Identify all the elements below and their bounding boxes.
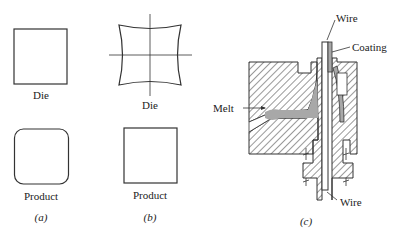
wire [322, 42, 328, 190]
wire-top-label: Wire [336, 13, 358, 24]
caption-a: (a) [35, 212, 48, 223]
panel-a [14, 29, 69, 184]
caption-b: (b) [144, 212, 157, 223]
extrusion-die-figure: Die Product (a) Die Product (b) Wire Coa… [0, 0, 396, 232]
product-rounded-a [15, 129, 69, 184]
die-right-step [337, 73, 347, 95]
product-square-b [124, 128, 177, 183]
coating-label: Coating [352, 42, 387, 53]
melt-label: Melt [213, 103, 234, 114]
product-label-b: Product [133, 190, 167, 201]
leader-wire-top [327, 20, 335, 40]
die-square-a [14, 29, 67, 84]
caption-c: (c) [300, 216, 312, 227]
leader-coating [332, 47, 350, 52]
die-label-b: Die [142, 100, 158, 111]
die-label-a: Die [33, 90, 49, 101]
coating [328, 42, 332, 72]
wire-bottom-label: Wire [340, 197, 362, 208]
panel-c [243, 20, 357, 200]
product-label-a: Product [24, 191, 58, 202]
